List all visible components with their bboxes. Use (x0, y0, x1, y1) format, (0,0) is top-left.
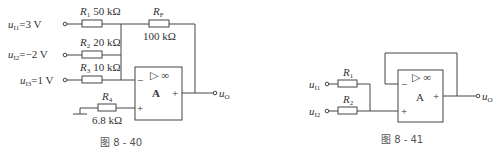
opamp-a-fig41: ▷ ∞ − + A + (398, 70, 443, 122)
opamp-plus: + (401, 105, 407, 117)
resistor-r2 (338, 107, 357, 114)
opamp-plus: + (137, 102, 143, 114)
figure-8-41: uI1 R1 uI2 R2 ▷ ∞ (309, 53, 493, 145)
opamp-out-sign: + (433, 90, 439, 102)
input-ui2-value: =−2 V (19, 48, 47, 60)
figure-8-40: uI1=3 V R150 kΩ uI2=−2 V R220 kΩ (8, 5, 230, 148)
output-terminal (213, 91, 217, 95)
resistor-r3-label: R310 kΩ (79, 61, 121, 75)
opamp-label: A (152, 87, 160, 99)
input-ui3: uI3=1 V R310 kΩ (20, 61, 135, 88)
resistor-r4-value: 6.8 kΩ (92, 114, 122, 126)
resistor-r2-label: R220 kΩ (79, 36, 121, 50)
caption-fig-8-40: 图 8 - 40 (100, 137, 142, 148)
input-ui1-fig41: uI1 R1 (309, 66, 370, 111)
ground-resistor-r4: R4 6.8 kΩ (73, 90, 135, 126)
output-terminal (476, 94, 480, 98)
output-label: uO (482, 90, 493, 104)
resistor-r3 (82, 76, 102, 83)
caption-fig-8-41: 图 8 - 41 (381, 134, 423, 145)
resistor-rf-value: 100 kΩ (143, 30, 176, 42)
input-ui1-value: =3 V (19, 18, 41, 30)
input-ui2: uI2=−2 V R220 kΩ (8, 36, 121, 62)
opamp-minus: − (137, 74, 143, 86)
resistor-rf-label: RF (152, 5, 164, 19)
svg-text:uI1=3 V: uI1=3 V (8, 18, 42, 32)
resistor-r2 (82, 51, 102, 58)
circuit-diagrams: uI1=3 V R150 kΩ uI2=−2 V R220 kΩ (0, 0, 500, 155)
svg-text:uI3=1 V: uI3=1 V (20, 74, 54, 88)
resistor-r1 (338, 80, 357, 87)
resistor-r1-label: R1 (342, 66, 354, 80)
opamp-symbol: ▷ ∞ (150, 69, 169, 81)
resistor-r2-label: R2 (342, 93, 354, 107)
input-ui3-value: =1 V (31, 74, 53, 86)
resistor-r1-label: R150 kΩ (79, 5, 121, 19)
resistor-r4 (98, 104, 116, 111)
input-ui3-terminal (63, 78, 67, 82)
input-ui1-terminal (63, 22, 67, 26)
resistor-r1 (82, 20, 102, 27)
input-ui1: uI1=3 V R150 kΩ (8, 5, 121, 32)
opamp-label: A (416, 91, 424, 103)
opamp-minus: − (401, 78, 407, 90)
resistor-r4-label: R4 (101, 90, 113, 104)
opamp-a-fig40: ▷ ∞ − + A + (135, 67, 182, 120)
svg-text:uI2: uI2 (309, 105, 321, 119)
input-ui2-terminal (325, 109, 329, 113)
resistor-rf (149, 20, 169, 27)
svg-text:uI1: uI1 (309, 78, 321, 92)
output-label: uO (219, 87, 230, 101)
input-ui2-terminal (63, 53, 67, 57)
svg-text:uI2=−2 V: uI2=−2 V (8, 48, 48, 62)
input-ui1-terminal (325, 82, 329, 86)
opamp-out-sign: + (172, 87, 178, 99)
input-ui2-fig41: uI2 R2 (309, 93, 398, 119)
opamp-symbol: ▷ ∞ (412, 71, 431, 83)
